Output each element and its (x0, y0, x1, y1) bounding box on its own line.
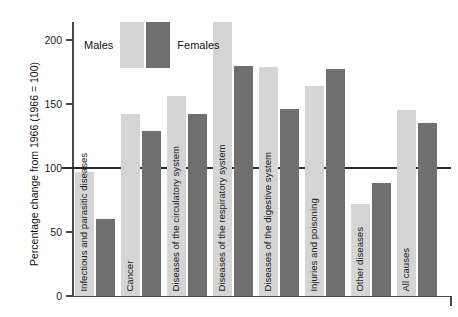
legend: Males Females (84, 22, 220, 68)
bar-female (188, 114, 207, 296)
y-tick-label-0: 0 (56, 291, 62, 302)
bar-female (142, 131, 161, 296)
bar-group: Injuries and poisoning (305, 20, 345, 296)
legend-swatch-males (120, 22, 144, 68)
chart-root: Percentage change from 1966 (1966 = 100)… (0, 0, 458, 317)
y-tick-label-100: 100 (44, 163, 62, 174)
bar-group: Diseases of the digestive system (259, 20, 299, 296)
y-tick-label-200: 200 (44, 35, 62, 46)
axis-right-cap (450, 296, 452, 306)
bar-female (234, 66, 253, 296)
y-tick-label-150: 150 (44, 99, 62, 110)
bar-male (351, 204, 370, 296)
bar-group: Other diseases (351, 20, 391, 296)
bar-female (280, 109, 299, 296)
legend-swatch-females (146, 22, 170, 68)
y-tick-label-50: 50 (50, 227, 62, 238)
bar-male (259, 67, 278, 296)
bar-female (96, 219, 115, 296)
y-axis-title: Percentage change from 1966 (1966 = 100) (28, 30, 40, 298)
bar-female (372, 183, 391, 296)
bar-male (167, 96, 186, 296)
bar-male (75, 172, 94, 296)
bar-male (305, 86, 324, 296)
bar-male (397, 110, 416, 296)
legend-label-females: Females (177, 39, 219, 51)
bar-female (418, 123, 437, 296)
legend-label-males: Males (84, 39, 113, 51)
bar-group: All causes (397, 20, 437, 296)
bar-male (121, 114, 140, 296)
bar-female (326, 69, 345, 296)
